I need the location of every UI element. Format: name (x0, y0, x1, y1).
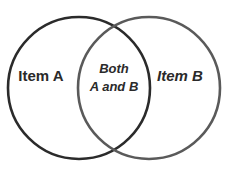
label-item-a: Item A (18, 67, 63, 84)
venn-diagram: Item A Item B Both A and B (0, 0, 230, 174)
label-intersection-line2: A and B (89, 79, 139, 94)
label-item-b: Item B (157, 67, 203, 84)
label-intersection-line1: Both (99, 61, 129, 76)
